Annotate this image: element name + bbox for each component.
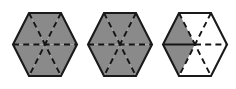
figure-canvas	[0, 0, 236, 89]
hexagon-1	[13, 13, 77, 76]
hexagon-2	[88, 13, 152, 76]
hexagon-figure-svg	[0, 0, 236, 89]
hexagon-3	[163, 13, 227, 76]
